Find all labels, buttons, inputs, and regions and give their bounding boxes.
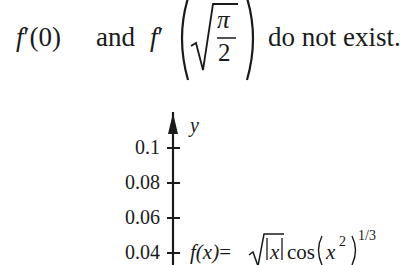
function-annotation: f(x)= (190, 240, 231, 265)
formula-abs-var: x (270, 240, 279, 265)
formula-equals: = (219, 240, 231, 264)
formula-cos: cos (287, 240, 315, 265)
left-paren (182, 0, 188, 80)
radical-sign (191, 4, 238, 70)
tick-label-0.08: 0.08 (80, 171, 160, 194)
formula-right-paren (352, 236, 356, 265)
tick-label-0.1: 0.1 (80, 136, 160, 159)
numerator-pi: π (217, 6, 230, 34)
formula-x: x (326, 240, 335, 265)
suffix-text: do not exist. (268, 22, 401, 53)
tick-label-0.04: 0.04 (80, 241, 160, 264)
formula-lhs: f(x) (190, 240, 219, 264)
y-axis-label: y (190, 114, 199, 137)
formula-left-paren (319, 236, 323, 265)
tick-label-0.06: 0.06 (80, 206, 160, 229)
formula-outer-exponent: 1/3 (358, 228, 376, 244)
right-paren (247, 0, 253, 80)
denominator-two: 2 (218, 39, 231, 67)
y-axis-arrow (168, 113, 178, 134)
formula-x-exponent: 2 (339, 234, 346, 250)
